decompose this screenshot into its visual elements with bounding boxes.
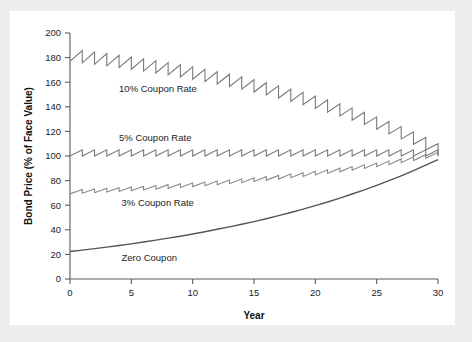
series-paths [70, 51, 438, 252]
y-tick-label-40: 40 [50, 224, 61, 235]
chart-panel: 020406080100120140160180200 051015202530… [10, 11, 455, 325]
y-tick-label-200: 200 [45, 27, 61, 38]
bond-price-chart: 020406080100120140160180200 051015202530… [10, 11, 455, 325]
series-line-1 [70, 150, 438, 156]
y-tick-label-60: 60 [50, 200, 61, 211]
series-label-1: 5% Coupon Rate [119, 132, 191, 143]
x-tick-label-25: 25 [371, 287, 382, 298]
y-tick-label-180: 180 [45, 52, 61, 63]
x-tick-label-20: 20 [310, 287, 321, 298]
y-tick-label-160: 160 [45, 77, 61, 88]
series-label-3: Zero Coupon [122, 252, 177, 263]
series-line-2 [70, 152, 438, 194]
figure-root: 020406080100120140160180200 051015202530… [0, 0, 472, 342]
x-axis-ticks: 051015202530 [67, 279, 443, 298]
y-tick-label-20: 20 [50, 249, 61, 260]
y-tick-label-80: 80 [50, 175, 61, 186]
y-axis-title: Bond Price (% of Face Value) [23, 87, 34, 225]
x-tick-label-30: 30 [433, 287, 444, 298]
y-axis-ticks: 020406080100120140160180200 [45, 27, 70, 284]
x-tick-label-0: 0 [67, 287, 72, 298]
x-tick-label-10: 10 [187, 287, 198, 298]
x-tick-label-5: 5 [129, 287, 134, 298]
y-tick-label-0: 0 [56, 273, 61, 284]
x-tick-label-15: 15 [249, 287, 260, 298]
y-tick-label-100: 100 [45, 150, 61, 161]
y-tick-label-120: 120 [45, 126, 61, 137]
y-tick-label-140: 140 [45, 101, 61, 112]
x-axis-title: Year [243, 310, 264, 321]
series-label-0: 10% Coupon Rate [119, 83, 197, 94]
series-label-2: 3% Coupon Rate [122, 197, 194, 208]
